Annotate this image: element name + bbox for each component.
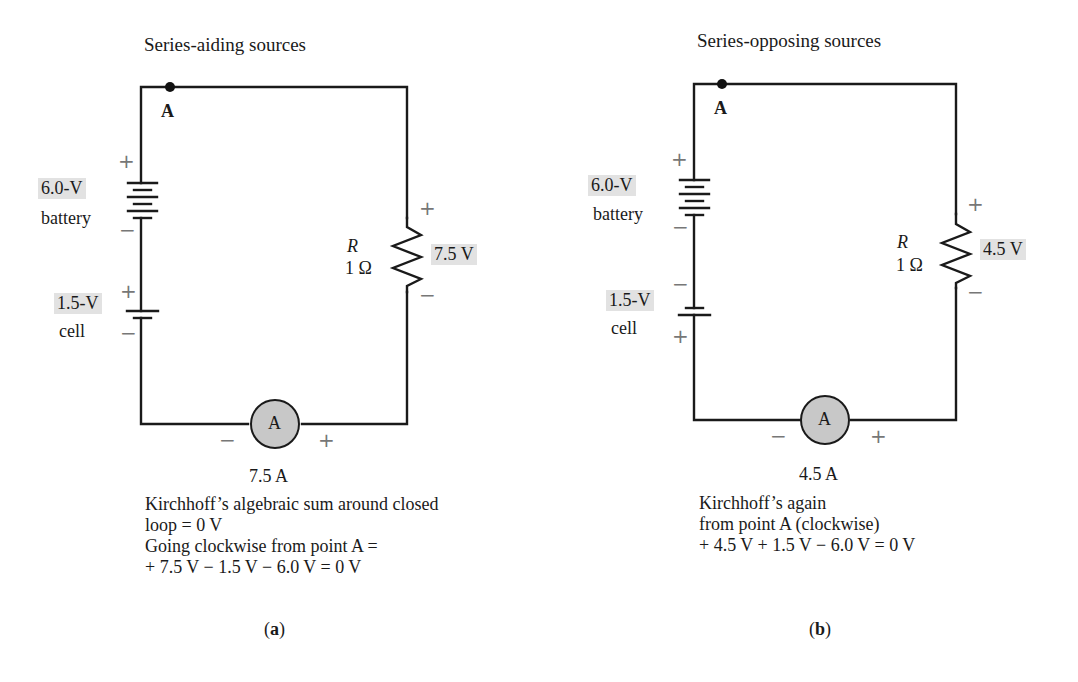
panel-b-title: Series-opposing sources xyxy=(697,30,881,52)
battery-a-minus-sign: − xyxy=(119,218,136,242)
panel-a-letter: a xyxy=(270,619,279,639)
cell-a-symbol xyxy=(127,311,158,318)
battery-b-name-label: battery xyxy=(593,204,643,225)
ammeter-a-plus-sign: + xyxy=(318,428,335,452)
ammeter-b-minus-sign: − xyxy=(770,424,787,448)
resistor-b-symbol-label: R xyxy=(897,232,908,253)
resistor-a-value-label: 1 Ω xyxy=(345,258,372,279)
caption-a-line-3: Going clockwise from point A = xyxy=(145,536,439,557)
circuit-b-wires xyxy=(694,84,956,420)
battery-a-voltage-label: 6.0-V xyxy=(38,178,86,199)
resistor-a-voltage-label: 7.5 V xyxy=(431,244,477,265)
caption-b-line-3: + 4.5 V + 1.5 V − 6.0 V = 0 V xyxy=(699,535,915,556)
circuit-a-wires xyxy=(141,87,407,424)
resistor-a-symbol-label: R xyxy=(347,236,358,257)
panel-a-label: (a) xyxy=(264,619,285,640)
panel-b-caption: Kirchhoff’s again from point A (clockwis… xyxy=(699,493,915,556)
resistor-a-minus-sign: − xyxy=(419,283,436,307)
ammeter-b-reading: 4.5 A xyxy=(799,464,838,485)
resistor-a-symbol xyxy=(393,218,421,292)
ammeter-b-label: A xyxy=(818,409,831,430)
cell-a-voltage-label: 1.5-V xyxy=(54,293,102,314)
battery-b-plus-sign: + xyxy=(671,147,688,171)
cell-b-symbol xyxy=(679,308,710,315)
cell-a-minus-sign: − xyxy=(120,321,137,345)
cell-b-name-label: cell xyxy=(611,318,637,339)
caption-a-line-1: Kirchhoff’s algebraic sum around closed xyxy=(145,494,439,515)
node-a-dot-panel-a xyxy=(165,82,175,92)
panel-b-letter: b xyxy=(815,619,825,639)
caption-a-line-2: loop = 0 V xyxy=(145,515,439,536)
cell-b-voltage-label: 1.5-V xyxy=(606,290,654,311)
caption-b-line-2: from point A (clockwise) xyxy=(699,514,915,535)
cell-a-name-label: cell xyxy=(59,321,85,342)
battery-a-symbol xyxy=(128,183,157,218)
battery-b-symbol xyxy=(680,180,709,215)
panel-b-label: (b) xyxy=(809,619,831,640)
battery-a-plus-sign: + xyxy=(118,149,135,173)
battery-b-minus-sign: − xyxy=(672,215,689,239)
panel-a-node-label: A xyxy=(161,101,174,122)
resistor-b-voltage-label: 4.5 V xyxy=(980,239,1026,260)
resistor-b-value-label: 1 Ω xyxy=(896,255,923,276)
ammeter-a-label: A xyxy=(268,413,281,434)
cell-b-plus-sign: + xyxy=(672,324,689,348)
cell-b-minus-sign: − xyxy=(672,272,689,296)
panel-b-node-label: A xyxy=(714,98,727,119)
resistor-b-plus-sign: + xyxy=(967,192,984,216)
battery-b-voltage-label: 6.0-V xyxy=(588,175,636,196)
resistor-b-symbol xyxy=(942,214,970,288)
panel-a-caption: Kirchhoff’s algebraic sum around closed … xyxy=(145,494,439,578)
cell-a-plus-sign: + xyxy=(120,279,137,303)
panel-a-title: Series-aiding sources xyxy=(144,34,306,56)
battery-a-name-label: battery xyxy=(41,208,91,229)
resistor-a-plus-sign: + xyxy=(419,196,436,220)
node-a-dot-panel-b xyxy=(717,79,727,89)
ammeter-b-plus-sign: + xyxy=(870,424,887,448)
caption-a-line-4: + 7.5 V − 1.5 V − 6.0 V = 0 V xyxy=(145,557,439,578)
caption-b-line-1: Kirchhoff’s again xyxy=(699,493,915,514)
ammeter-a-reading: 7.5 A xyxy=(249,466,288,487)
resistor-b-minus-sign: − xyxy=(967,280,984,304)
ammeter-a-minus-sign: − xyxy=(219,428,236,452)
